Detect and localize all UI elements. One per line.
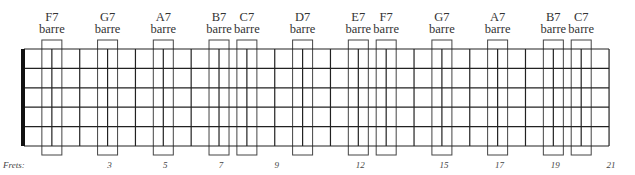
chord-label: F7barre [32, 11, 72, 35]
nut [21, 49, 25, 146]
chord-type: barre [478, 23, 518, 35]
chord-type: barre [143, 23, 183, 35]
chord-label: A7barre [143, 11, 183, 35]
chord-type: barre [561, 23, 601, 35]
fret-number: 7 [211, 160, 231, 170]
chord-type: barre [422, 23, 462, 35]
chord-type: barre [227, 23, 267, 35]
fret-number: 9 [267, 160, 287, 170]
fret-number: 19 [545, 160, 565, 170]
chord-type: barre [32, 23, 72, 35]
fretboard-diagram: F7barreG7barreA7barreB7barreC7barreD7bar… [0, 0, 635, 175]
chord-label: C7barre [227, 11, 267, 35]
chord-type: barre [88, 23, 128, 35]
chord-label: A7barre [478, 11, 518, 35]
fret-number: 12 [350, 160, 370, 170]
fret-number: 3 [100, 160, 120, 170]
chord-label: D7barre [283, 11, 323, 35]
chord-label: C7barre [561, 11, 601, 35]
frets-title: Frets: [3, 160, 25, 170]
fret-number: 15 [434, 160, 454, 170]
chord-label: G7barre [422, 11, 462, 35]
fret-number: 5 [155, 160, 175, 170]
fret-number: 21 [601, 160, 621, 170]
chord-label: G7barre [88, 11, 128, 35]
chord-type: barre [283, 23, 323, 35]
fret-number: 17 [490, 160, 510, 170]
chord-label: F7barre [366, 11, 406, 35]
chord-type: barre [366, 23, 406, 35]
